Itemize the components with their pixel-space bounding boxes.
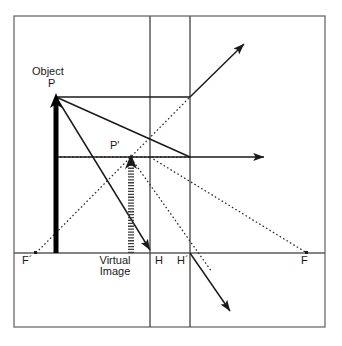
principal-plane-h-label: H	[155, 255, 163, 267]
principal-plane-h-prime-label: H´	[177, 255, 189, 267]
object-label: Object	[32, 66, 64, 78]
focal-point-F-prime-dot	[34, 251, 37, 254]
rays-solid	[56, 44, 264, 311]
object-arrow	[50, 93, 62, 253]
focal-point-f-label: F	[301, 255, 308, 267]
diagram-canvas	[0, 0, 342, 346]
ray-from-P-to-H-prime	[56, 97, 190, 157]
dotted-extension-to-F	[150, 157, 307, 253]
virtual-image-label-line2: Image	[93, 266, 137, 278]
dotted-back-F-prime-through-P-prime	[36, 97, 190, 253]
dotted-extension-through-H-prime	[131, 158, 212, 272]
construction-lines-dotted	[36, 97, 307, 272]
ray-refracted-down	[190, 253, 230, 311]
ray-refracted-up	[190, 44, 244, 97]
diagram-frame	[14, 16, 325, 327]
point-p-label: P	[48, 78, 55, 90]
point-p-prime-label: P'	[110, 140, 119, 152]
focal-point-f-prime-label: F´	[22, 255, 32, 267]
virtual-image-arrow	[125, 154, 137, 253]
optics-ray-diagram: Object P P' F´ Virtual Image H H´ F	[0, 0, 342, 346]
ray-from-P-to-H	[56, 97, 150, 250]
